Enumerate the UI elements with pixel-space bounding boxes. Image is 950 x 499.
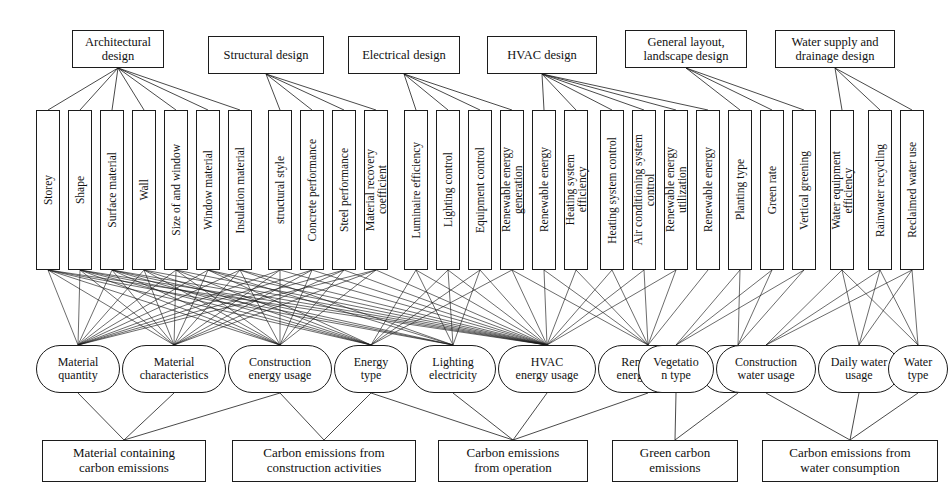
parameter-renewable-energy-label: Renewable energy (538, 147, 550, 232)
design-stage-general-layout-landscape-design-label: General layout, landscape design (643, 35, 728, 63)
parameter-storey[interactable]: Storey (36, 110, 60, 270)
parameter-material-recovery-coefficient-label: Material recovery coefficient (364, 149, 388, 231)
parameter-renewable-energy-utilization-label: Renewable energy utilization (664, 147, 688, 232)
parameter-renewable-energy-label: Renewable energy (702, 147, 714, 232)
indicator-hvac-energy-usage-label: HVAC energy usage (516, 356, 579, 383)
parameter-equipment-control-label: Equipment control (474, 147, 486, 233)
parameter-heating-system-control-label: Heating system control (606, 137, 618, 244)
design-stage-water-supply-and-drainage-design[interactable]: Water supply and drainage design (775, 30, 895, 68)
parameter-heating-system-efficiency[interactable]: Heating system efficiency (564, 110, 588, 270)
parameter-steel-performance[interactable]: Steel performance (332, 110, 356, 270)
indicator-material-quantity-label: Material quantity (58, 356, 99, 383)
design-stage-hvac-design[interactable]: HVAC design (487, 36, 597, 74)
parameter-vertical-greening[interactable]: Vertical greening (792, 110, 816, 270)
parameter-air-conditioning-system-control-label: Air conditioning system control (632, 134, 656, 245)
parameter-renewable-energy[interactable]: Renewable energy (532, 110, 556, 270)
parameter-rainwater-recycling-label: Rainwater recycling (874, 144, 886, 237)
emission-category-carbon-emissions-from-construction-activities-label: Carbon emissions from construction activ… (263, 446, 384, 475)
parameter-size-of-and-window[interactable]: Size of and window (164, 110, 188, 270)
emission-category-carbon-emissions-from-water-consumption-label: Carbon emissions from water consumption (789, 446, 910, 475)
parameter-wall[interactable]: Wall (132, 110, 156, 270)
parameter-concrete-performance[interactable]: Concrete performance (300, 110, 324, 270)
indicator-material-quantity[interactable]: Material quantity (36, 345, 120, 393)
parameter-structural-style-label: structural style (274, 156, 286, 224)
design-stage-structural-design-label: Structural design (223, 48, 308, 62)
parameter-luminaire-efficiency[interactable]: Luminaire efficiency (404, 110, 428, 270)
parameter-planting-type[interactable]: Planting type (728, 110, 752, 270)
parameter-reclaimed-water-use[interactable]: Reclaimed water use (900, 110, 924, 270)
design-stage-electrical-design-label: Electrical design (362, 48, 446, 62)
parameter-structural-style[interactable]: structural style (268, 110, 292, 270)
emission-category-carbon-emissions-from-construction-activities[interactable]: Carbon emissions from construction activ… (232, 440, 416, 482)
parameter-lighting-control[interactable]: Lighting control (436, 110, 460, 270)
indicator-lighting-electricity-label: Lighting electricity (429, 356, 477, 383)
parameter-water-equipment-efficiency[interactable]: Water equipment efficiency (830, 110, 854, 270)
indicator-construction-water-usage-label: Construction water usage (735, 356, 797, 383)
parameter-equipment-control[interactable]: Equipment control (468, 110, 492, 270)
indicator-water-type-label: Water type (904, 356, 932, 383)
indicator-water-type[interactable]: Water type (888, 345, 948, 393)
parameter-vertical-greening-label: Vertical greening (798, 151, 810, 230)
design-stage-general-layout-landscape-design[interactable]: General layout, landscape design (625, 30, 747, 68)
emission-category-carbon-emissions-from-operation[interactable]: Carbon emissions from operation (438, 440, 588, 482)
parameter-air-conditioning-system-control[interactable]: Air conditioning system control (632, 110, 656, 270)
parameter-lighting-control-label: Lighting control (442, 152, 454, 227)
parameter-heating-system-efficiency-label: Heating system efficiency (564, 154, 588, 225)
parameter-surface-material-label: Surface material (106, 152, 118, 228)
parameter-material-recovery-coefficient[interactable]: Material recovery coefficient (364, 110, 388, 270)
parameter-reclaimed-water-use-label: Reclaimed water use (906, 142, 918, 238)
indicator-material-characteristics[interactable]: Material characteristics (122, 345, 226, 393)
indicator-construction-water-usage[interactable]: Construction water usage (716, 345, 816, 393)
parameter-heating-system-control[interactable]: Heating system control (600, 110, 624, 270)
indicator-hvac-energy-usage[interactable]: HVAC energy usage (498, 345, 596, 393)
design-stage-electrical-design[interactable]: Electrical design (348, 36, 460, 74)
parameter-insulation-material-label: Insulation material (234, 147, 246, 234)
emission-category-carbon-emissions-from-operation-label: Carbon emissions from operation (467, 446, 560, 475)
indicator-energy-type[interactable]: Energy type (334, 345, 408, 393)
emission-category-green-carbon-emissions-label: Green carbon emissions (640, 446, 710, 475)
parameter-window-material-label: Window material (202, 150, 214, 230)
parameter-concrete-performance-label: Concrete performance (306, 139, 318, 241)
design-stage-hvac-design-label: HVAC design (507, 48, 577, 62)
parameter-wall-label: Wall (138, 179, 150, 200)
emission-category-green-carbon-emissions[interactable]: Green carbon emissions (612, 440, 738, 482)
indicator-vegetatio-n-type-label: Vegetatio n type (653, 356, 698, 383)
parameter-water-equipment-efficiency-label: Water equipment efficiency (830, 151, 854, 230)
design-stage-structural-design[interactable]: Structural design (208, 36, 324, 74)
parameter-insulation-material[interactable]: Insulation material (228, 110, 252, 270)
parameter-storey-label: Storey (42, 175, 54, 205)
parameter-renewable-energy-utilization[interactable]: Renewable energy utilization (664, 110, 688, 270)
emission-category-material-containing-carbon-emissions[interactable]: Material containing carbon emissions (42, 440, 206, 482)
parameter-shape-label: Shape (74, 176, 86, 204)
emission-category-carbon-emissions-from-water-consumption[interactable]: Carbon emissions from water consumption (762, 440, 938, 482)
parameter-renewable-energy-generation[interactable]: Renewable energy generation (500, 110, 524, 270)
parameter-shape[interactable]: Shape (68, 110, 92, 270)
design-stage-water-supply-and-drainage-design-label: Water supply and drainage design (791, 35, 878, 63)
design-stage-architectural-design[interactable]: Architectural design (72, 30, 164, 68)
parameter-renewable-energy[interactable]: Renewable energy (696, 110, 720, 270)
parameter-luminaire-efficiency-label: Luminaire efficiency (410, 142, 422, 239)
parameter-green-rate-label: Green rate (766, 166, 778, 214)
parameter-planting-type-label: Planting type (734, 159, 746, 220)
parameter-surface-material[interactable]: Surface material (100, 110, 124, 270)
parameter-renewable-energy-generation-label: Renewable energy generation (500, 147, 524, 232)
indicator-vegetatio-n-type[interactable]: Vegetatio n type (638, 345, 714, 393)
design-stage-architectural-design-label: Architectural design (85, 35, 151, 63)
indicator-construction-energy-usage-label: Construction energy usage (249, 356, 312, 383)
indicator-lighting-electricity[interactable]: Lighting electricity (410, 345, 496, 393)
parameter-steel-performance-label: Steel performance (338, 148, 350, 232)
indicator-material-characteristics-label: Material characteristics (140, 356, 209, 383)
parameter-rainwater-recycling[interactable]: Rainwater recycling (868, 110, 892, 270)
parameter-size-of-and-window-label: Size of and window (170, 144, 182, 236)
indicator-energy-type-label: Energy type (354, 356, 388, 383)
parameter-window-material[interactable]: Window material (196, 110, 220, 270)
indicator-daily-water-usage-label: Daily water usage (831, 356, 887, 383)
indicator-construction-energy-usage[interactable]: Construction energy usage (228, 345, 332, 393)
parameter-green-rate[interactable]: Green rate (760, 110, 784, 270)
emission-category-material-containing-carbon-emissions-label: Material containing carbon emissions (73, 446, 175, 475)
diagram-canvas: Architectural designStructural designEle… (0, 0, 950, 499)
